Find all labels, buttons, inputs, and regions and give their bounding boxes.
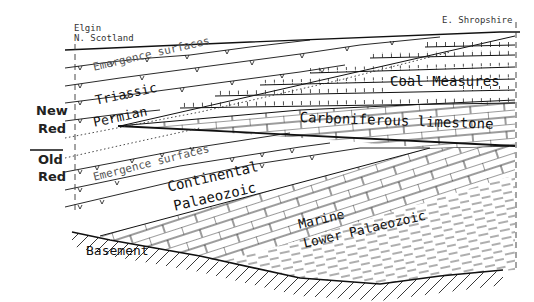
unit-label-basement: Basement <box>86 244 149 257</box>
side-label-old-red: Red <box>38 170 66 183</box>
side-label-new-red: Red <box>38 122 66 135</box>
location-label-e-shropshire: E. Shropshire <box>442 16 512 25</box>
unit-label-coal-measures: Coal Measures <box>390 74 500 88</box>
side-label-old: Old <box>38 153 63 166</box>
location-label-elgin: Elgin <box>74 24 101 33</box>
side-label-new: New <box>36 104 68 117</box>
location-label-n-scotland: N. Scotland <box>74 34 134 43</box>
stratigraphic-cross-section <box>0 0 534 302</box>
